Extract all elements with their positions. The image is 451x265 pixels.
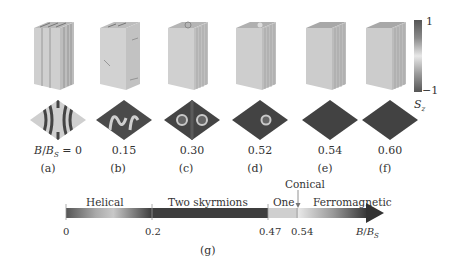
panel-d — [232, 20, 288, 150]
spin-cube-ferromagnetic-2 — [362, 20, 418, 92]
panel-label-b: (b) — [88, 162, 148, 175]
phase-label-conical: Conical — [285, 178, 325, 190]
spin-diamond-ferromagnetic — [302, 100, 358, 140]
spin-cube-ferromagnetic — [302, 20, 358, 92]
spin-cube-distorted — [96, 20, 152, 92]
panel-label-g: (g) — [200, 244, 216, 257]
spin-cube-one-skyrmion — [232, 20, 288, 92]
phase-label-ferromagnetic: Ferromagnetic — [313, 196, 392, 208]
phase-label-helical: Helical — [86, 196, 124, 208]
spin-cube-two-skyrmions — [164, 20, 220, 92]
panel-b — [96, 20, 152, 150]
spin-diamond-one-skyrmion — [232, 100, 288, 140]
panel-c — [164, 20, 220, 150]
panel-f — [362, 20, 418, 150]
spin-diamond-helical — [30, 100, 86, 140]
value-label-f: 0.60 — [350, 144, 430, 157]
panel-a — [30, 20, 86, 150]
spin-cube-helical — [30, 20, 86, 92]
tick-0-54: 0.54 — [291, 226, 313, 237]
tick-0-2: 0.2 — [145, 226, 161, 237]
phase-label-one: One — [273, 196, 295, 208]
axis-label-b-over-bs: B/BS — [356, 226, 379, 240]
colorbar — [414, 20, 422, 92]
panel-label-e: (e) — [295, 162, 355, 175]
panel-label-d: (d) — [225, 162, 285, 175]
spin-diamond-distorted — [96, 100, 152, 140]
tick-0: 0 — [63, 226, 69, 237]
panel-label-c: (c) — [156, 162, 216, 175]
panel-e — [302, 20, 358, 150]
value-label-d: 0.52 — [220, 144, 300, 157]
panel-label-a: (a) — [18, 162, 78, 175]
conical-pointer-arrow — [294, 190, 302, 210]
colorbar-title: Sz — [414, 98, 425, 113]
colorbar-min-label: −1 — [422, 84, 438, 97]
colorbar-max-label: 1 — [426, 15, 433, 28]
panel-label-f: (f) — [355, 162, 415, 175]
spin-diamond-two-skyrmions — [164, 100, 220, 140]
tick-0-47: 0.47 — [259, 226, 281, 237]
phase-label-two-skyrmions: Two skyrmions — [168, 196, 248, 208]
spin-diamond-ferromagnetic-2 — [362, 100, 418, 140]
